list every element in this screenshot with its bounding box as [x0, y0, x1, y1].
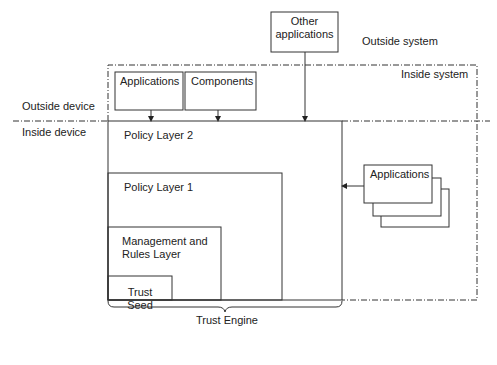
diagram-canvas: [0, 0, 497, 365]
components-label: Components: [191, 75, 253, 88]
other-applications-line1: Other: [271, 15, 338, 28]
other-applications-line2: applications: [271, 28, 338, 41]
trust-engine-label: Trust Engine: [196, 314, 258, 327]
trust-seed-line2: Seed: [108, 299, 172, 312]
trust-seed-line1: Trust: [108, 286, 172, 299]
management-line2: Rules Layer: [122, 248, 208, 261]
inside-device-label: Inside device: [22, 126, 86, 139]
other-applications-label: Other applications: [271, 15, 338, 41]
inside-system-label: Inside system: [401, 68, 468, 81]
policy-layer-1-label: Policy Layer 1: [124, 181, 193, 194]
outside-device-label: Outside device: [22, 100, 95, 113]
trust-seed-label: Trust Seed: [108, 286, 172, 312]
applications-top-label: Applications: [120, 75, 179, 88]
applications-stack-label: Applications: [370, 168, 429, 181]
management-line1: Management and: [122, 235, 208, 248]
policy-layer-2-box: [108, 121, 342, 300]
management-rules-label: Management and Rules Layer: [122, 235, 208, 261]
policy-layer-2-label: Policy Layer 2: [124, 129, 193, 142]
outside-system-label: Outside system: [362, 35, 438, 48]
